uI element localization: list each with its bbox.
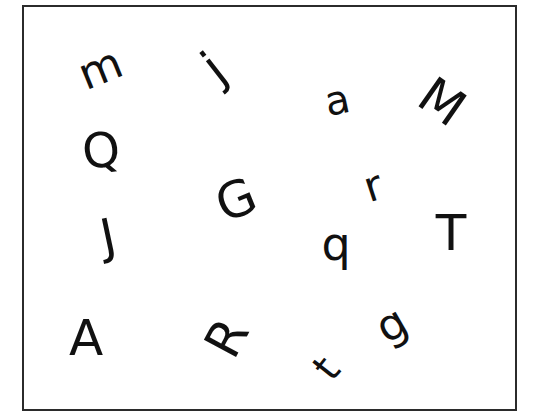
letter-T-upper: T bbox=[435, 204, 467, 262]
letter-m: m bbox=[71, 36, 130, 99]
letter-canvas: m j a M Q G r J q T A R g t bbox=[0, 0, 546, 418]
letter-G-upper: G bbox=[207, 166, 265, 234]
letter-J-upper: J bbox=[92, 207, 120, 265]
letter-q: q bbox=[321, 217, 350, 271]
letter-R-upper: R bbox=[193, 309, 261, 367]
letter-a: a bbox=[320, 75, 354, 125]
letter-Q-upper: Q bbox=[78, 120, 123, 181]
letter-g: g bbox=[366, 295, 416, 353]
letter-A-upper: A bbox=[69, 309, 103, 367]
letter-r: r bbox=[357, 160, 389, 212]
letter-t: t bbox=[303, 348, 349, 389]
letter-M-upper: M bbox=[408, 66, 477, 138]
letter-j: j bbox=[190, 41, 237, 96]
